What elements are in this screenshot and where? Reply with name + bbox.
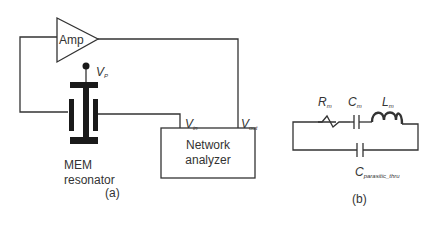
circuit-bottom-right-wire: [363, 124, 418, 150]
c-parasitic-label: Cparasitic_thru: [355, 162, 400, 180]
mem-resonator-icon: [69, 63, 98, 145]
rm-label: Rm: [318, 92, 332, 110]
vout-label: Vout: [241, 114, 257, 132]
caption-a: (a): [105, 186, 120, 201]
vin-label: Vin: [185, 114, 198, 132]
circuit-top-left-wire: [293, 122, 357, 150]
resonator-to-vin-wire: [97, 114, 180, 128]
network-analyzer-label: Network analyzer: [161, 138, 255, 168]
cm-label: Cm: [348, 92, 362, 110]
caption-b: (b): [352, 192, 367, 207]
amp-label: Amp: [59, 33, 84, 48]
inductor-lm-icon: [372, 113, 402, 125]
mem-resonator-label: MEM resonator: [64, 158, 110, 188]
vp-label: VP: [96, 62, 108, 80]
lm-label: Lm: [382, 92, 394, 110]
